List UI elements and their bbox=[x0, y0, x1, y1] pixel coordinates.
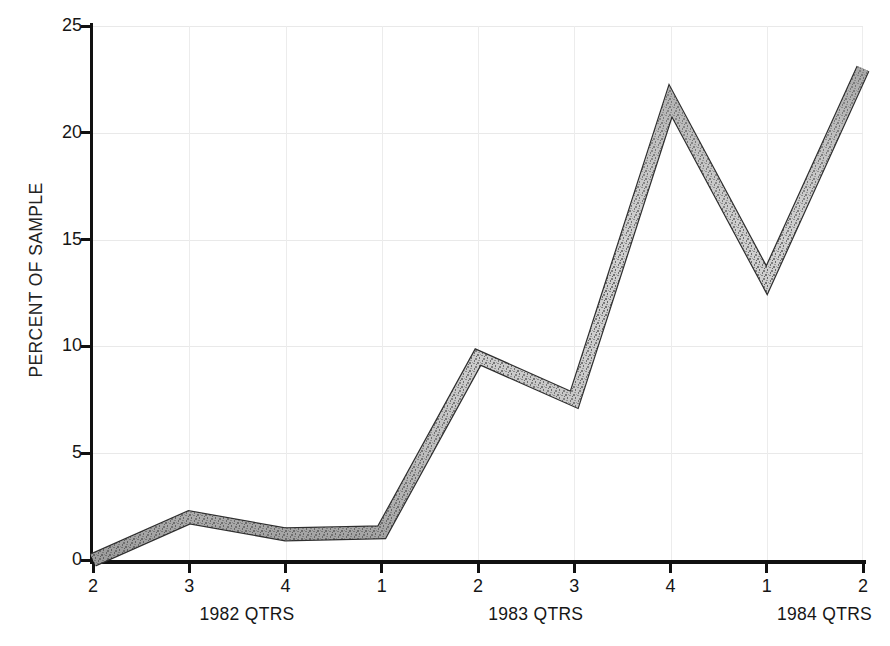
x-group-label: 1983 QTRS bbox=[436, 604, 636, 625]
x-axis-group-labels: 1982 QTRS1983 QTRS1984 QTRS bbox=[0, 604, 890, 630]
x-tick-mark bbox=[284, 560, 287, 573]
x-tick-mark bbox=[477, 560, 480, 573]
y-tick-label: 15 bbox=[44, 229, 82, 250]
y-tick-label: 10 bbox=[44, 335, 82, 356]
x-group-label: 1984 QTRS bbox=[725, 604, 890, 625]
y-tick-mark bbox=[81, 452, 93, 455]
y-axis-tick-labels: 0510152025 bbox=[38, 0, 82, 646]
x-tick-label: 4 bbox=[651, 576, 691, 597]
x-axis-tick-labels: 234123412 bbox=[0, 576, 890, 602]
x-tick-mark bbox=[380, 560, 383, 573]
x-tick-mark bbox=[765, 560, 768, 573]
x-tick-mark bbox=[669, 560, 672, 573]
y-tick-mark bbox=[81, 238, 93, 241]
x-tick-mark bbox=[188, 560, 191, 573]
x-tick-label: 1 bbox=[362, 576, 402, 597]
x-tick-label: 3 bbox=[554, 576, 594, 597]
x-tick-mark bbox=[573, 560, 576, 573]
x-tick-mark bbox=[862, 560, 865, 573]
x-tick-label: 4 bbox=[266, 576, 306, 597]
x-tick-label: 2 bbox=[458, 576, 498, 597]
data-series-line bbox=[93, 26, 863, 560]
y-tick-mark bbox=[81, 25, 93, 28]
chart-container: PERCENT OF SAMPLE 0510152025 bbox=[0, 0, 890, 646]
y-tick-label: 0 bbox=[44, 549, 82, 570]
y-tick-label: 25 bbox=[44, 15, 82, 36]
x-tick-label: 2 bbox=[843, 576, 883, 597]
y-tick-mark bbox=[81, 131, 93, 134]
y-tick-label: 5 bbox=[44, 442, 82, 463]
plot-area bbox=[93, 26, 863, 560]
y-tick-mark bbox=[81, 345, 93, 348]
x-tick-label: 3 bbox=[169, 576, 209, 597]
x-group-label: 1982 QTRS bbox=[147, 604, 347, 625]
y-tick-label: 20 bbox=[44, 122, 82, 143]
x-tick-label: 1 bbox=[747, 576, 787, 597]
x-tick-label: 2 bbox=[73, 576, 113, 597]
